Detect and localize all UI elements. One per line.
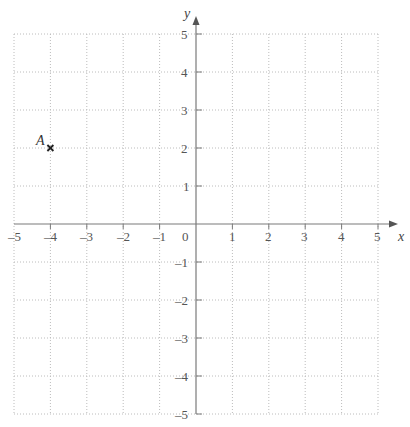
- x-tick-label--1: –1: [153, 230, 166, 243]
- x-axis-ticks: [50, 224, 378, 229]
- x-tick-label-5: 5: [374, 230, 381, 243]
- y-axis-label: y: [184, 7, 190, 21]
- x-tick-label--5: –5: [8, 230, 21, 243]
- x-tick-label--3: –3: [80, 230, 93, 243]
- x-tick-label-3: 3: [301, 230, 308, 243]
- x-axis-label: x: [398, 230, 404, 244]
- y-tick-label--2: –2: [175, 294, 188, 307]
- origin-label: 0: [182, 230, 189, 243]
- x-tick-label-1: 1: [229, 230, 236, 243]
- x-tick-label-2: 2: [265, 230, 272, 243]
- x-tick-label-4: 4: [338, 230, 345, 243]
- y-tick-label--5: –5: [175, 408, 188, 421]
- y-tick-label-1: 1: [183, 180, 190, 193]
- x-tick-label--4: –4: [44, 230, 57, 243]
- point-label-a: A: [36, 134, 45, 148]
- graph-canvas: [0, 0, 410, 427]
- coordinate-plane: –5 –4 –3 –2 –1 0 1 2 3 4 5 5 4 3 2 1 –1 …: [0, 0, 410, 427]
- y-tick-label--1: –1: [175, 256, 188, 269]
- y-tick-label-5: 5: [181, 28, 188, 41]
- x-axis: [14, 221, 398, 228]
- x-tick-label--2: –2: [117, 230, 130, 243]
- y-axis: [193, 16, 200, 414]
- y-tick-label--3: –3: [175, 332, 188, 345]
- y-tick-label-4: 4: [181, 66, 188, 79]
- x-axis-arrowhead: [389, 221, 398, 228]
- y-axis-arrowhead: [193, 16, 200, 25]
- y-tick-label-2: 2: [181, 142, 188, 155]
- y-tick-label-3: 3: [181, 104, 188, 117]
- y-tick-label--4: –4: [175, 370, 188, 383]
